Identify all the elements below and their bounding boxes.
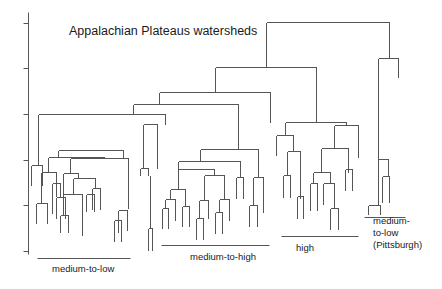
dendrogram-tree	[32, 23, 399, 251]
group-label: medium-to-high	[190, 251, 256, 263]
group-label-line: (Pittsburgh)	[373, 239, 422, 251]
group-label-line: medium-to-low	[52, 263, 114, 275]
group-label-line: medium-	[373, 215, 422, 227]
group-label: medium-to-low(Pittsburgh)	[373, 215, 422, 251]
y-axis	[24, 13, 29, 255]
group-label-line: to-low	[373, 227, 422, 239]
chart-title: Appalachian Plateaus watersheds	[69, 24, 257, 38]
group-label: high	[296, 242, 314, 254]
group-label-line: high	[296, 242, 314, 254]
group-label: medium-to-low	[52, 263, 114, 275]
group-label-line: medium-to-high	[190, 251, 256, 263]
